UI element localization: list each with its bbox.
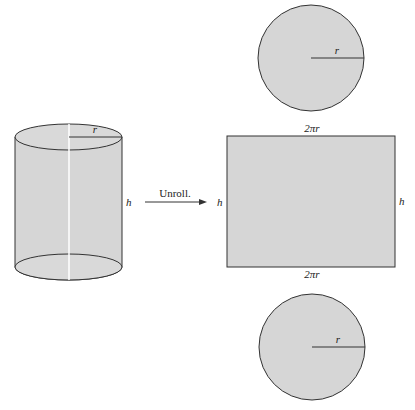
bottom-circle bbox=[259, 294, 365, 400]
cylinder-height-label: h bbox=[126, 196, 132, 208]
cylinder-net-diagram: r h Unroll. r 2πr 2πr h h r bbox=[0, 0, 415, 410]
unroll-label: Unroll. bbox=[159, 187, 191, 199]
rectangle-top-label: 2πr bbox=[304, 122, 320, 134]
rectangle-left-label: h bbox=[217, 196, 223, 208]
cylinder bbox=[15, 124, 122, 280]
bottom-circle-radius-label: r bbox=[336, 333, 341, 345]
lateral-surface-rectangle bbox=[227, 136, 395, 267]
rectangle-right-label: h bbox=[399, 195, 405, 207]
top-circle-radius-label: r bbox=[335, 44, 340, 56]
unroll-arrow bbox=[145, 199, 207, 205]
cylinder-radius-label: r bbox=[93, 123, 98, 135]
arrowhead-icon bbox=[199, 199, 207, 205]
rectangle-bottom-label: 2πr bbox=[304, 268, 320, 280]
top-circle bbox=[258, 5, 364, 111]
